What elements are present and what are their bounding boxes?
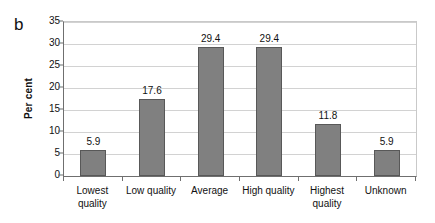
x-axis-tick-labels: Lowest qualityLow qualityAverageHigh qua… bbox=[63, 184, 415, 222]
x-axis-tick-label: Low quality bbox=[126, 184, 176, 197]
x-axis-tick-mark bbox=[180, 176, 181, 181]
bar-chart-figure: b Per cent 05101520253035 5.917.629.429.… bbox=[0, 0, 435, 223]
x-axis-tick-label: Highest quality bbox=[310, 184, 344, 210]
x-axis-tick-mark bbox=[239, 176, 240, 181]
y-axis-tick-labels: 05101520253035 bbox=[38, 21, 60, 175]
x-axis-tick-label: Average bbox=[191, 184, 228, 197]
bar-slot: 29.4 bbox=[181, 22, 240, 176]
bar-value-label: 5.9 bbox=[86, 137, 100, 147]
y-axis-tick-mark bbox=[58, 131, 63, 132]
y-axis-tick-mark bbox=[58, 109, 63, 110]
x-axis-tick-mark bbox=[122, 176, 123, 181]
bar-value-label: 17.6 bbox=[142, 86, 161, 96]
x-axis-tick-mark bbox=[356, 176, 357, 181]
x-axis-tick-label: Lowest quality bbox=[76, 184, 108, 210]
bar-slot: 5.9 bbox=[357, 22, 416, 176]
bar-slot: 11.8 bbox=[299, 22, 358, 176]
plot-area: 5.917.629.429.411.85.9 bbox=[63, 21, 417, 177]
y-axis-tick-mark bbox=[58, 87, 63, 88]
x-axis-tick-mark bbox=[415, 176, 416, 181]
x-axis-tick-label: High quality bbox=[242, 184, 294, 197]
bar[interactable] bbox=[139, 99, 165, 176]
x-axis-tick-mark bbox=[298, 176, 299, 181]
bar-value-label: 11.8 bbox=[319, 111, 338, 121]
bar[interactable] bbox=[315, 124, 341, 176]
y-axis-tick-mark bbox=[58, 153, 63, 154]
bar-value-label: 29.4 bbox=[260, 34, 279, 44]
bar[interactable] bbox=[256, 47, 282, 176]
bar[interactable] bbox=[374, 150, 400, 176]
y-axis-tick-mark bbox=[58, 43, 63, 44]
bar-value-label: 29.4 bbox=[201, 34, 220, 44]
y-axis-tick-mark bbox=[58, 21, 63, 22]
y-axis-tick-mark bbox=[58, 65, 63, 66]
bar-slot: 5.9 bbox=[64, 22, 123, 176]
bar-slot: 17.6 bbox=[123, 22, 182, 176]
y-axis-title-text: Per cent bbox=[24, 77, 35, 118]
y-axis-title: Per cent bbox=[22, 21, 36, 175]
bar-slot: 29.4 bbox=[240, 22, 299, 176]
bar-value-label: 5.9 bbox=[380, 137, 394, 147]
x-axis-tick-label: Unknown bbox=[365, 184, 407, 197]
bar[interactable] bbox=[80, 150, 106, 176]
bar[interactable] bbox=[198, 47, 224, 176]
x-axis-tick-mark bbox=[63, 176, 64, 181]
